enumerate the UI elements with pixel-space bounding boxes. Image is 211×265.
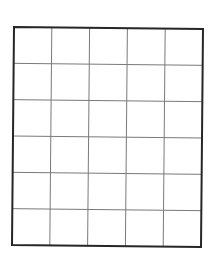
horizontal-gridline	[13, 136, 202, 138]
grid-lines	[12, 27, 202, 246]
horizontal-gridline	[12, 209, 201, 211]
horizontal-gridline	[14, 63, 203, 65]
horizontal-gridline	[13, 100, 202, 102]
grid-diagram	[0, 0, 211, 265]
horizontal-gridline	[13, 172, 202, 174]
